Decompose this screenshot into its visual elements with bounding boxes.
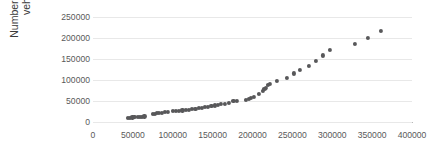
data-point (275, 79, 279, 83)
scatter-chart: Number of private vehicles 0500001000001… (0, 0, 439, 158)
x-axis-tick-label: 400000 (398, 131, 427, 140)
data-point (298, 68, 302, 72)
gridline-horizontal (93, 17, 412, 18)
data-point (379, 29, 383, 33)
data-point (328, 48, 332, 52)
data-point (307, 64, 311, 68)
gridline-horizontal (93, 101, 412, 102)
plot-area (93, 17, 412, 122)
x-axis-tick-label: 300000 (318, 131, 347, 140)
x-axis-tick-label: 0 (91, 131, 96, 140)
x-axis-tick-label: 150000 (198, 131, 227, 140)
data-point (166, 110, 170, 114)
x-axis-tick-label: 200000 (238, 131, 267, 140)
gridline-horizontal (93, 59, 412, 60)
gridline-horizontal (93, 122, 412, 123)
gridline-horizontal (93, 38, 412, 39)
x-axis-tick-label: 250000 (278, 131, 307, 140)
x-axis-tick-label: 50000 (121, 131, 145, 140)
data-point (314, 59, 318, 63)
data-point (366, 36, 370, 40)
data-point (234, 98, 238, 102)
gridline-horizontal (93, 80, 412, 81)
data-point (257, 92, 261, 96)
x-axis-tick-label: 350000 (358, 131, 387, 140)
data-point (321, 53, 325, 57)
x-axis-tick-label: 100000 (158, 131, 187, 140)
data-point (142, 114, 146, 118)
data-point (292, 71, 296, 75)
data-point (268, 82, 272, 86)
data-point (352, 42, 356, 46)
data-point (252, 94, 256, 98)
